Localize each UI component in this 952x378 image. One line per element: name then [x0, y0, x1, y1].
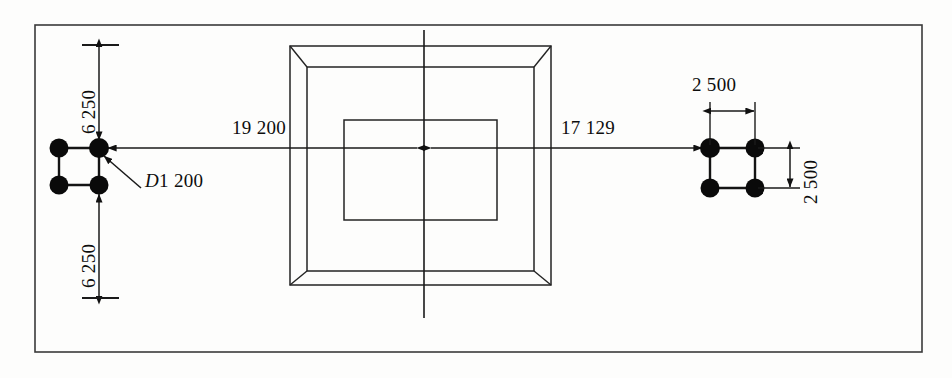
dimension-right-vertical-spacing: [758, 148, 800, 188]
pile-callout-value: 1 200: [159, 170, 203, 191]
pile-dot: [89, 138, 109, 158]
dimension-right-horizontal-spacing: [710, 102, 755, 145]
label-left-upper-offset: 6 250: [78, 90, 100, 134]
label-right-span: 17 129: [561, 117, 615, 139]
pile-callout-leader: [104, 156, 141, 188]
label-pile-diameter-callout: D1 200: [145, 170, 203, 192]
pile-dot: [50, 176, 69, 195]
pile-dot: [90, 176, 109, 195]
frustum-core-rect: [344, 120, 497, 220]
frustum-inner-outline: [307, 67, 534, 271]
pile-dot: [701, 179, 720, 198]
label-right-vertical-spacing: 2 500: [800, 160, 822, 204]
pile-callout-symbol: D: [145, 170, 159, 191]
frustum-corner-edge-br: [534, 271, 551, 285]
label-left-span: 19 200: [232, 117, 286, 139]
frustum-corner-edge-tr: [534, 46, 551, 67]
pile-dot: [50, 139, 69, 158]
drawing-canvas: 19 200 17 129 6 250 6 250 D1 200 2 500 2…: [0, 0, 952, 378]
central-structure: [290, 46, 551, 285]
frustum-corner-edge-bl: [290, 271, 307, 285]
left-pile-group: [50, 138, 110, 195]
frustum-outer-outline: [290, 46, 551, 285]
label-left-lower-offset: 6 250: [78, 244, 100, 288]
frustum-corner-edge-tl: [290, 46, 307, 67]
right-pile-group: [700, 138, 765, 198]
label-right-horizontal-spacing: 2 500: [692, 74, 736, 96]
